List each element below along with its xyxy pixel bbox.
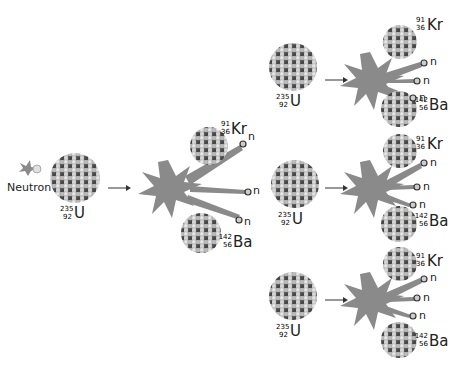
neutron-n-label: n — [430, 55, 437, 68]
uranium-nucleus-icon — [50, 153, 100, 203]
generation-2-bottom — [269, 247, 427, 358]
neutron-n-label: n — [423, 291, 430, 304]
neutron-n-label: n — [419, 91, 426, 104]
neutron-n-label: n — [253, 184, 260, 197]
neutron-n-label: n — [423, 180, 430, 193]
fission-diagram: Neutron 23592 U 23592 U 23592 U 23592 U … — [0, 0, 455, 368]
neutron-n-label: n — [244, 215, 251, 228]
incoming-neutron-icon — [19, 160, 41, 176]
neutron-n-label: n — [419, 198, 426, 211]
neutron-label: Neutron — [7, 181, 51, 194]
neutron-n-label: n — [430, 271, 437, 284]
neutron-n-label: n — [423, 74, 430, 87]
barium-nucleus-icon — [181, 213, 221, 253]
generation-2-top — [269, 25, 427, 127]
diagram-graphics — [0, 0, 455, 368]
neutron-n-label: n — [430, 156, 437, 169]
neutron-n-label: n — [419, 309, 426, 322]
neutron-n-label: n — [248, 130, 255, 143]
